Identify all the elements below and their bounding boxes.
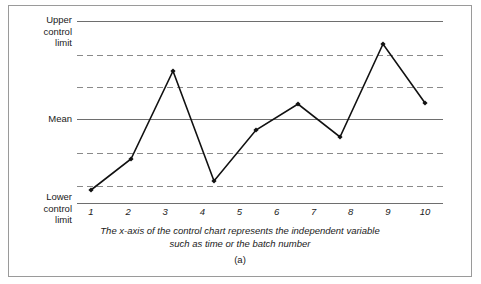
- panel-letter: (a): [40, 254, 440, 265]
- x-tick-4: 4: [190, 206, 214, 217]
- series-line: [91, 44, 425, 190]
- plot-area: [77, 5, 443, 210]
- x-tick-10: 10: [413, 206, 437, 217]
- x-tick-6: 6: [265, 206, 289, 217]
- x-axis-tick-labels: 12345678910: [77, 206, 443, 222]
- data-series: [88, 41, 427, 192]
- plot-svg: [77, 5, 443, 210]
- x-tick-2: 2: [116, 206, 140, 217]
- upper-control-limit-label: Upper control limit: [16, 14, 72, 49]
- control-chart-figure: Upper control limit Mean Lower control l…: [0, 0, 481, 284]
- caption-line-1: The x-axis of the control chart represen…: [40, 224, 440, 237]
- x-tick-3: 3: [153, 206, 177, 217]
- lower-control-limit-label: Lower control limit: [16, 191, 72, 226]
- x-tick-9: 9: [376, 206, 400, 217]
- x-tick-8: 8: [339, 206, 363, 217]
- caption-line-2: such as time or the batch number: [40, 237, 440, 250]
- control-limit-lines: [77, 21, 443, 203]
- x-tick-5: 5: [227, 206, 251, 217]
- data-point-marker: [170, 68, 175, 73]
- mean-label: Mean: [16, 113, 72, 125]
- figure-caption: The x-axis of the control chart represen…: [40, 224, 440, 250]
- x-tick-7: 7: [302, 206, 326, 217]
- x-tick-1: 1: [79, 206, 103, 217]
